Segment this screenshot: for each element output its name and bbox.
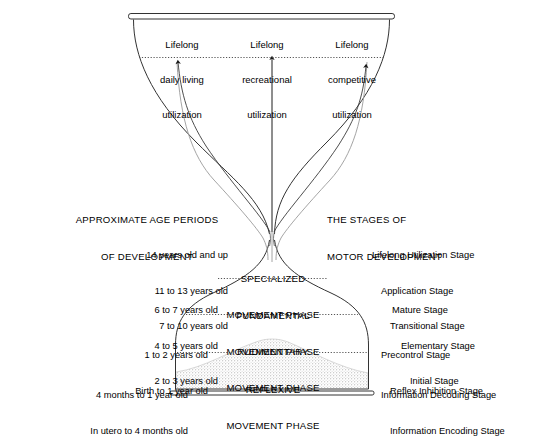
phase-line: SPECIALIZED	[197, 273, 349, 285]
phase-line: RUDIMENTARY	[197, 346, 349, 358]
top-label-competitive: Lifelong competitive utilization	[310, 15, 394, 145]
stage-line: Lifelong Utilization Stage	[372, 250, 535, 262]
top-label-line: Lifelong	[225, 39, 309, 51]
top-label-line: Lifelong	[310, 39, 394, 51]
phase-line: REFLEXIVE	[197, 384, 349, 396]
phase-line: MOVEMENT PHASE	[197, 420, 349, 432]
top-label-recreational: Lifelong recreational utilization	[225, 15, 309, 145]
top-label-line: utilization	[310, 109, 394, 121]
age-line: 1 to 2 years old	[28, 350, 208, 362]
top-label-daily-living: Lifelong daily living utilization	[140, 15, 224, 145]
top-label-line: daily living	[140, 74, 224, 86]
right-heading-line: THE STAGES OF	[327, 214, 527, 226]
stage-line: Information Decoding Stage	[381, 390, 535, 402]
stage-group-reflexive: Information Decoding Stage Information E…	[381, 366, 535, 440]
age-line: 4 months to 1 year old	[8, 390, 188, 402]
age-line: In utero to 4 months old	[8, 426, 188, 438]
stage-line: Mature Stage	[392, 305, 535, 317]
top-label-line: recreational	[225, 74, 309, 86]
phase-line: FUNDAMENTAL	[197, 310, 349, 322]
age-group-reflexive: 4 months to 1 year old In utero to 4 mon…	[8, 366, 188, 440]
phase-reflexive: REFLEXIVE MOVEMENT PHASE	[197, 360, 349, 440]
stage-line: Information Encoding Stage	[381, 426, 535, 438]
top-label-line: competitive	[310, 74, 394, 86]
age-line: 6 to 7 years old	[38, 305, 218, 317]
stage-line: Precontrol Stage	[381, 350, 535, 362]
left-heading-line: APPROXIMATE AGE PERIODS	[52, 214, 242, 226]
top-label-line: utilization	[140, 109, 224, 121]
top-label-line: utilization	[225, 109, 309, 121]
top-label-line: Lifelong	[140, 39, 224, 51]
